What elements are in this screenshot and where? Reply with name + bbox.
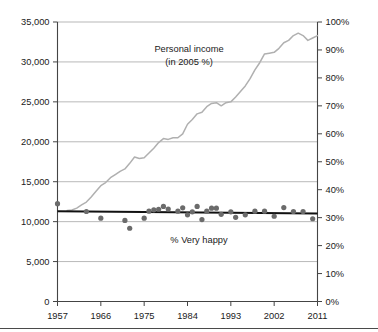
left-tick-label: 35,000	[21, 17, 49, 27]
chart-figure: 05,00010,00015,00020,00025,00030,00035,0…	[0, 0, 378, 332]
personal-income-vs-very-happy-chart: 05,00010,00015,00020,00025,00030,00035,0…	[0, 0, 378, 332]
right-tick-label: 40%	[326, 185, 345, 195]
very-happy-data-point	[98, 216, 103, 221]
bottom-tick-label: 1993	[220, 311, 241, 321]
very-happy-data-point	[122, 218, 127, 223]
left-tick-label: 10,000	[21, 217, 49, 227]
bottom-tick-label: 2002	[264, 311, 285, 321]
right-tick-label: 0%	[326, 297, 339, 307]
right-tick-label: 100%	[326, 17, 350, 27]
very-happy-data-point	[180, 205, 185, 210]
very-happy-data-point	[272, 214, 277, 219]
left-tick-label: 25,000	[21, 97, 49, 107]
left-tick-label: 0	[44, 297, 49, 307]
very-happy-data-point	[233, 215, 238, 220]
left-tick-label: 15,000	[21, 177, 49, 187]
right-tick-label: 60%	[326, 129, 345, 139]
very-happy-data-point	[243, 212, 248, 217]
very-happy-data-point	[252, 209, 257, 214]
left-tick-label: 20,000	[21, 137, 49, 147]
very-happy-data-point	[195, 204, 200, 209]
right-tick-label: 70%	[326, 101, 345, 111]
bottom-tick-label: 1966	[90, 311, 111, 321]
bottom-tick-label: 1957	[47, 311, 68, 321]
bottom-tick-label: 1984	[177, 311, 198, 321]
right-tick-label: 20%	[326, 241, 345, 251]
right-tick-label: 10%	[326, 269, 345, 279]
footer-divider	[0, 328, 378, 329]
very-happy-data-point	[185, 212, 190, 217]
very-happy-data-point	[190, 209, 195, 214]
right-tick-label: 80%	[326, 73, 345, 83]
very-happy-data-point	[151, 207, 156, 212]
very-happy-data-point	[228, 209, 233, 214]
personal-income-annotation-line1: Personal income	[154, 44, 223, 54]
personal-income-annotation-line2: (in 2005 %)	[165, 57, 213, 67]
very-happy-data-point	[219, 212, 224, 217]
very-happy-data-point	[146, 209, 151, 214]
very-happy-data-point	[291, 209, 296, 214]
very-happy-data-point	[214, 206, 219, 211]
bottom-tick-label: 2011	[308, 311, 328, 321]
bottom-tick-label: 1975	[134, 311, 155, 321]
very-happy-data-point	[262, 209, 267, 214]
very-happy-data-point	[199, 217, 204, 222]
left-tick-label: 5,000	[26, 257, 49, 267]
left-tick-label: 30,000	[21, 57, 49, 67]
right-tick-label: 50%	[326, 157, 345, 167]
very-happy-data-point	[84, 209, 89, 214]
very-happy-data-point	[281, 205, 286, 210]
very-happy-data-point	[310, 216, 315, 221]
very-happy-data-point	[209, 206, 214, 211]
right-tick-label: 90%	[326, 45, 345, 55]
very-happy-data-point	[156, 207, 161, 212]
very-happy-annotation: % Very happy	[170, 235, 228, 245]
very-happy-data-point	[161, 204, 166, 209]
very-happy-data-point	[204, 209, 209, 214]
very-happy-data-point	[166, 206, 171, 211]
very-happy-data-point	[142, 216, 147, 221]
very-happy-data-point	[127, 226, 132, 231]
very-happy-data-point	[300, 209, 305, 214]
very-happy-data-point	[175, 209, 180, 214]
right-tick-label: 30%	[326, 213, 345, 223]
very-happy-data-point	[55, 201, 60, 206]
